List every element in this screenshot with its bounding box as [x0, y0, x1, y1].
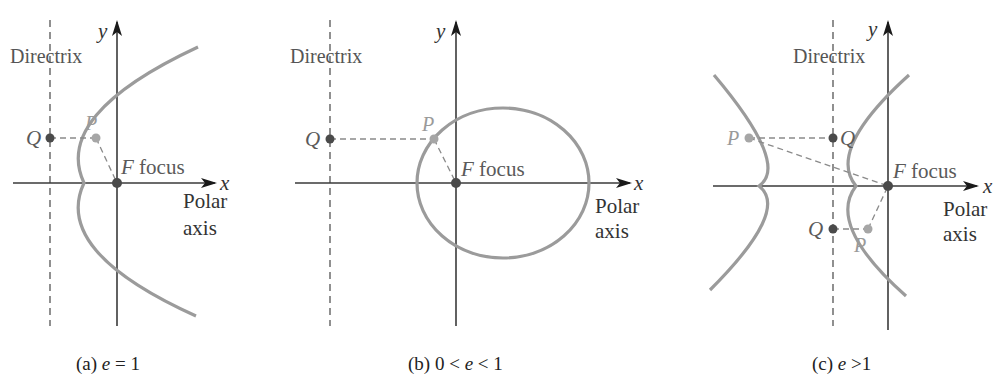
- label-F-focus: F focus: [892, 159, 957, 183]
- hyperbola-left-branch: [710, 75, 768, 290]
- point-Q: [46, 134, 55, 143]
- caption-a: (a) e = 1: [76, 353, 140, 375]
- point-F-focus: [883, 181, 893, 191]
- label-P2: P: [853, 234, 866, 256]
- y-axis-label: y: [866, 17, 878, 41]
- point-P: [92, 134, 101, 143]
- point-F-focus: [112, 178, 122, 188]
- panel-c-hyperbola: Directrix y x P Q Q P F focus Polar axis…: [710, 17, 993, 375]
- label-P: P: [421, 113, 434, 135]
- polar-axis-label-line2: axis: [595, 219, 629, 243]
- point-P: [430, 135, 439, 144]
- label-Q2: Q: [808, 217, 823, 241]
- panel-b-ellipse: Directrix y x Q P F focus Polar axis (b)…: [290, 19, 644, 375]
- conics-figure: Directrix y x Q P F focus Polar axis (a)…: [0, 0, 1008, 389]
- polar-axis-label-line1: Polar: [183, 189, 227, 213]
- caption-c: (c) e >1: [812, 353, 871, 375]
- point-P1: [745, 134, 754, 143]
- point-Q: [326, 135, 335, 144]
- polar-axis-label-line1: Polar: [595, 194, 639, 218]
- label-P1: P: [726, 127, 739, 149]
- parabola-curve: [78, 47, 198, 316]
- directrix-label: Directrix: [10, 45, 82, 67]
- label-F-focus: F focus: [120, 155, 185, 179]
- point-P2: [864, 225, 873, 234]
- point-Q2: [829, 225, 838, 234]
- y-axis-label: y: [434, 19, 446, 43]
- directrix-label: Directrix: [793, 45, 865, 67]
- polar-axis-label-line2: axis: [943, 222, 977, 246]
- x-axis-label: x: [982, 174, 993, 198]
- label-Q: Q: [305, 127, 320, 151]
- label-F-focus: F focus: [460, 157, 525, 181]
- polar-axis-label-line2: axis: [183, 216, 217, 240]
- polar-axis-label-line1: Polar: [943, 197, 987, 221]
- directrix-label: Directrix: [290, 45, 362, 67]
- label-Q: Q: [26, 126, 41, 150]
- y-axis-label: y: [96, 19, 108, 43]
- point-F-focus: [451, 178, 461, 188]
- caption-b: (b) 0 < e < 1: [408, 353, 503, 375]
- label-P: P: [84, 112, 97, 134]
- segment-P1F: [749, 138, 888, 186]
- segment-P2F: [868, 186, 888, 229]
- x-axis-label: x: [633, 171, 644, 195]
- point-Q1: [829, 134, 838, 143]
- label-Q1: Q: [840, 126, 855, 150]
- panel-a-parabola: Directrix y x Q P F focus Polar axis (a)…: [10, 19, 230, 375]
- segment-PF: [96, 138, 117, 183]
- segment-PF: [434, 139, 456, 183]
